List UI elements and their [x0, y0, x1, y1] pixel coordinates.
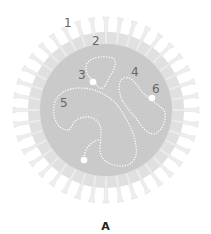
spike [178, 78, 196, 88]
spike [103, 17, 109, 34]
figure-caption: A [0, 220, 211, 233]
spike [17, 132, 35, 142]
label-2: 2 [92, 35, 100, 47]
spike [181, 92, 199, 99]
label-4: 4 [131, 66, 139, 78]
spike [128, 21, 138, 39]
spike [17, 78, 35, 88]
spike [14, 120, 32, 127]
spike [116, 18, 123, 36]
spike [14, 92, 32, 99]
spike [116, 185, 123, 203]
spike [128, 182, 138, 200]
dot-3 [90, 79, 97, 86]
virus-illustration [0, 0, 211, 234]
spike [74, 21, 84, 39]
virus-diagram: 1 2 3 4 5 6 A [0, 0, 211, 234]
dot-bottom [81, 157, 88, 164]
label-5: 5 [60, 97, 68, 109]
spike [178, 132, 196, 142]
label-1: 1 [64, 17, 72, 29]
spike [103, 186, 109, 203]
spike [182, 107, 199, 113]
spike [181, 120, 199, 127]
label-3: 3 [78, 69, 86, 81]
spike [88, 18, 95, 36]
spike [74, 182, 84, 200]
spike [88, 185, 95, 203]
spike [13, 107, 30, 113]
label-6: 6 [152, 83, 160, 95]
